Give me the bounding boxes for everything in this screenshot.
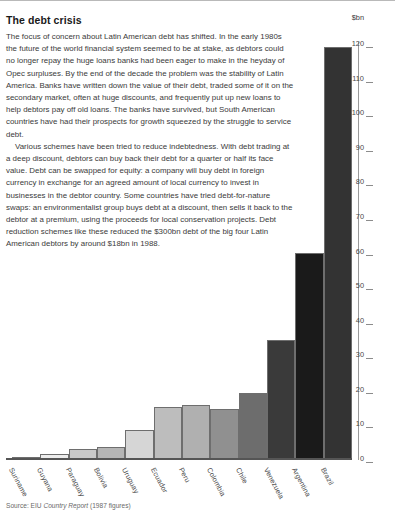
chart-y-tick: 70	[356, 213, 364, 221]
chart-x-axis	[6, 458, 352, 460]
source-organisation: EIU	[31, 502, 42, 509]
chart-y-tick: 50	[356, 282, 364, 290]
chart-y-tick: 0	[360, 455, 364, 463]
chart-bar	[239, 393, 267, 459]
chart-bar	[267, 340, 295, 459]
top-divider	[0, 0, 395, 2]
chart-y-tick-labels: 1201101009080706050403020100$bn	[306, 14, 395, 484]
source-note: (1987 figures)	[90, 502, 131, 509]
chart-y-tick: 20	[356, 386, 364, 394]
chart-bars	[12, 44, 352, 459]
debt-bar-chart: 1201101009080706050403020100$bn Suriname…	[6, 14, 389, 484]
chart-y-tick: 10	[356, 420, 364, 428]
source-line: Source: EIU Country Report (1987 figures…	[6, 502, 131, 509]
chart-plot-area	[12, 44, 352, 459]
chart-bar	[182, 405, 210, 459]
chart-category-labels: SurinameGuyanaParaguayBoliviaUruguayEcua…	[12, 464, 352, 521]
source-label: Source:	[6, 502, 29, 509]
chart-y-tick: 90	[356, 144, 364, 152]
chart-unit-label: $bn	[352, 14, 364, 22]
chart-category-label: Brazil	[324, 464, 352, 521]
chart-bar	[154, 407, 182, 459]
chart-y-tick: 100	[352, 109, 364, 117]
chart-bar	[210, 409, 238, 459]
chart-y-tick: 40	[356, 317, 364, 325]
source-publication: Country Report	[43, 502, 88, 509]
chart-y-tick: 30	[356, 351, 364, 359]
chart-y-tick: 80	[356, 178, 364, 186]
chart-bar	[125, 430, 153, 459]
chart-y-tick: 110	[352, 75, 364, 83]
chart-y-tick: 120	[352, 40, 364, 48]
chart-y-tick: 60	[356, 248, 364, 256]
